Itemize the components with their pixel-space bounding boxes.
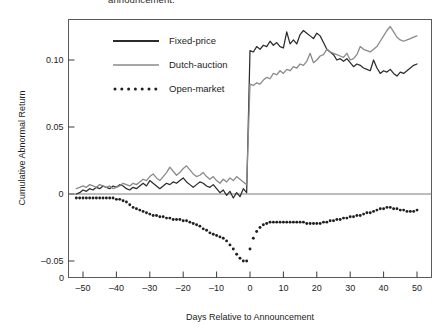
figure-container: announcement. 0.100.050–0.05 –50–40–30–2… [0,0,440,336]
series-open-market [75,197,419,263]
x-tick-label: 50 [412,283,422,293]
x-axis-title: Days Relative to Announcement [186,312,315,322]
legend-label-fixed-price: Fixed-price [169,35,216,46]
x-tick-label: 40 [379,283,389,293]
legend-label-open-market: Open-market [169,83,225,94]
chart-legend: Fixed-priceDutch-auctionOpen-market [113,35,228,94]
x-tick-label: –50 [75,283,90,293]
x-tick-label: –20 [176,283,191,293]
x-tick-label: –40 [109,283,124,293]
y-tick-label: –0.05 [41,256,64,266]
x-tick-label: 20 [312,283,322,293]
y-tick-label: 0.10 [46,55,64,65]
y-axis-ticks: 0.100.050–0.05 [41,55,75,266]
x-tick-label: 30 [345,283,355,293]
y-axis-title: Cumulative Abnormal Return [17,90,27,205]
data-series-group [75,27,419,263]
y-tick-label: 0.05 [46,122,64,132]
x-tick-label: –30 [142,283,157,293]
y-axis-origin-label: 0 [59,273,64,283]
x-tick-label: –10 [209,283,224,293]
chart-svg: 0.100.050–0.05 –50–40–30–20–100102030405… [0,0,440,336]
x-tick-label: 0 [247,283,252,293]
series-dutch-auction [76,27,417,189]
legend-label-dutch-auction: Dutch-auction [169,59,228,70]
y-tick-label: 0 [58,189,63,199]
x-axis-ticks: –50–40–30–20–1001020304050 [75,272,422,293]
x-tick-label: 10 [278,283,288,293]
